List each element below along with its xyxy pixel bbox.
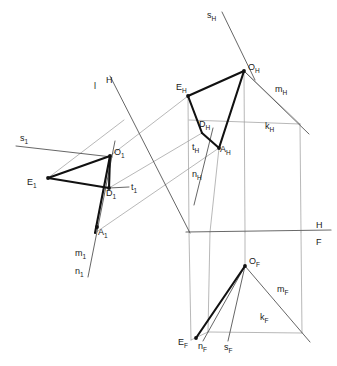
aux-proj-EF: [189, 232, 191, 340]
label-EF: EF: [178, 337, 188, 349]
label-t1: t1: [131, 182, 138, 194]
label-sH: sH: [207, 10, 217, 22]
label-F-ground: F: [316, 237, 322, 247]
aux-proj-OH: [244, 71, 245, 232]
ground-line-HF: [186, 230, 331, 232]
label-E1: E1: [27, 177, 37, 189]
label-AH: AH: [220, 144, 231, 156]
arrow-O1: [108, 154, 112, 158]
aux-corr-1: [110, 96, 188, 156]
arrow-OH: [242, 69, 246, 73]
auxiliary-lines-layer: [48, 71, 302, 340]
aux-proj-kF: [301, 232, 302, 333]
descriptive-geometry-figure: s1O1E1D1t1A1m1n1lHsHOHEHmHDHkHAHtHnHHFOF…: [0, 0, 337, 366]
label-m1: m1: [75, 248, 87, 260]
label-n1: n1: [75, 266, 84, 278]
line-mH: [244, 71, 309, 134]
aux-kF-base: [208, 332, 302, 333]
aux-corr-3: [95, 148, 219, 233]
arrowheads-layer: [46, 69, 247, 340]
label-H-axis-top: H: [106, 75, 113, 85]
drawing-canvas: s1O1E1D1t1A1m1n1lHsHOHEHmHDHkHAHtHnHHFOF…: [0, 0, 337, 366]
seg-E1-D1: [48, 178, 109, 188]
seg-E1-O1: [48, 156, 110, 178]
line-mF: [245, 266, 310, 342]
label-EH: EH: [176, 82, 187, 94]
label-sF: sF: [224, 342, 233, 354]
label-mH: mH: [275, 84, 288, 96]
seg-EH-OH: [188, 71, 244, 96]
arrow-EF: [194, 336, 198, 340]
seg-EF-OF: [196, 266, 245, 338]
label-mF: mF: [277, 284, 289, 296]
label-OF: OF: [249, 256, 260, 268]
label-A1: A1: [98, 227, 108, 239]
label-tH: tH: [192, 142, 200, 154]
label-kF: kF: [260, 312, 269, 324]
arrow-EH: [186, 94, 190, 98]
arrow-OF: [243, 264, 247, 268]
label-D1: D1: [106, 188, 117, 200]
label-O1: O1: [114, 147, 125, 159]
aux-proj-kH: [300, 124, 301, 232]
label-H-ground: H: [316, 220, 323, 230]
arrow-E1: [46, 176, 50, 180]
label-nF: nF: [198, 341, 207, 353]
thin-lines-layer: [16, 12, 310, 342]
label-l: l: [94, 81, 96, 91]
line-s1: [16, 146, 112, 157]
label-OH: OH: [248, 62, 260, 74]
thick-lines-layer: [48, 71, 245, 338]
seg-AH-OH: [219, 71, 244, 148]
ground-line-layer: [186, 230, 331, 232]
aux-corr-4: [48, 120, 124, 178]
label-nH: nH: [192, 169, 202, 181]
aux-proj-AH: [210, 148, 219, 232]
aux-proj-EH: [188, 96, 189, 232]
seg-DH-AH: [202, 133, 219, 148]
label-s1: s1: [20, 133, 29, 145]
